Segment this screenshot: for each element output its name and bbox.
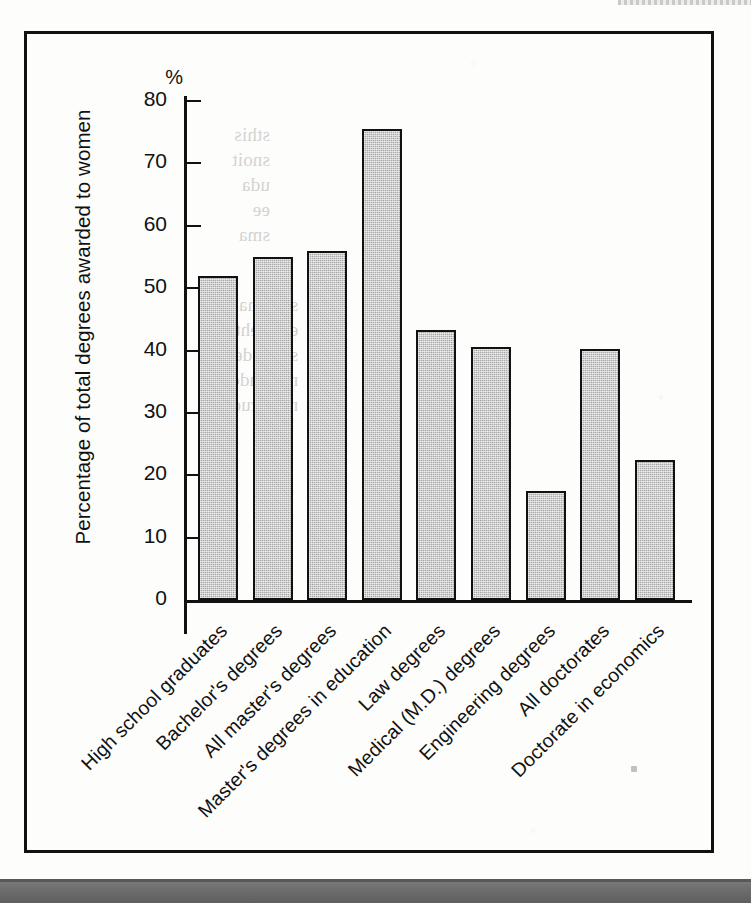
y-tick-label-0: 0: [27, 586, 175, 610]
y-tick-label-80: 80: [27, 87, 175, 111]
y-tick-label-10: 10: [27, 524, 175, 548]
y-tick-label-60: 60: [27, 212, 175, 236]
y-tick-label-50: 50: [27, 274, 175, 298]
scan-bottom-band: [0, 879, 751, 903]
figure-frame: % Percentage of total degrees awarded to…: [24, 31, 714, 853]
y-tick-label-70: 70: [27, 149, 175, 173]
bar-0: [198, 276, 238, 600]
scan-fleck: [631, 766, 637, 772]
y-tick-label-30: 30: [27, 399, 175, 423]
y-tick-label-40: 40: [27, 337, 175, 361]
x-axis-category-labels: High school graduatesBachelor's degreesA…: [184, 606, 724, 856]
scan-top-edge: [618, 0, 751, 5]
plot-area: % Percentage of total degrees awarded to…: [27, 34, 717, 856]
y-tick-label-20: 20: [27, 461, 175, 485]
